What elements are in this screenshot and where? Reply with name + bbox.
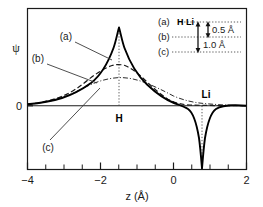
- y-axis-title: ψ: [12, 41, 20, 55]
- figure-container: −4 −2 0 2 z (Å) ψ 0: [0, 0, 263, 207]
- curve-c-path: [28, 78, 247, 106]
- curve-label-c: (c): [42, 142, 54, 153]
- leader-line-c: [50, 88, 100, 140]
- x-tick-label-1: −2: [94, 174, 107, 186]
- x-tick-label-0: −4: [21, 174, 34, 186]
- legend-key-c: (c): [158, 46, 169, 57]
- curve-label-a: (a): [60, 31, 72, 42]
- annotation-li: Li: [202, 89, 211, 100]
- x-tick-label-2: 0: [170, 174, 176, 186]
- leader-line-a: [75, 42, 112, 60]
- curve-label-b: (b): [32, 53, 44, 64]
- measure-arrow-1-0: [196, 21, 201, 53]
- y-tick-label-0: 0: [16, 100, 22, 112]
- measure-label-0-5: 0.5 Å: [212, 24, 235, 35]
- measure-label-1-0: 1.0 Å: [203, 39, 226, 50]
- curve-b-path: [28, 65, 247, 106]
- legend-key-a: (a): [158, 16, 170, 27]
- legend-key-b: (b): [158, 31, 170, 42]
- wavefunction-chart: −4 −2 0 2 z (Å) ψ 0: [0, 0, 263, 207]
- x-axis-title: z (Å): [125, 190, 148, 202]
- legend-atoms-a: H Li: [177, 17, 194, 27]
- measure-arrow-0-5: [206, 21, 211, 38]
- x-tick-label-3: 2: [243, 174, 249, 186]
- annotation-h: H: [115, 113, 122, 124]
- leader-line-b: [47, 64, 97, 83]
